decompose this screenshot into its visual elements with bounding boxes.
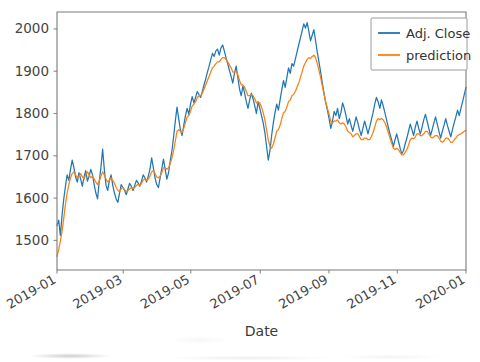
y-tick-label: 1600 (15, 190, 49, 206)
line-chart-figure: 150016001700180019002000 2019-012019-032… (0, 0, 480, 362)
y-tick-label: 1700 (15, 147, 49, 163)
y-tick-label: 2000 (15, 20, 49, 36)
legend-label-adj-close: Adj. Close (406, 26, 470, 41)
x-axis-label: Date (245, 323, 278, 339)
y-tick-label: 1900 (15, 63, 49, 79)
legend-label-prediction: prediction (406, 48, 471, 63)
y-tick-label: 1500 (15, 232, 49, 248)
chart-legend[interactable]: Adj. Closeprediction (371, 18, 471, 70)
y-tick-label: 1800 (15, 105, 49, 121)
